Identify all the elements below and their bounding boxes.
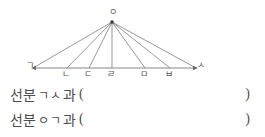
- question-2-suffix: 과: [63, 109, 76, 129]
- question-1-prefix: 선분: [10, 84, 36, 104]
- point-label-ㄱ: ㄱ: [26, 61, 34, 70]
- apex-vertex-dot: [110, 20, 114, 24]
- question-2-prefix: 선분: [10, 109, 36, 129]
- ray-apex-to-6: [112, 22, 196, 68]
- question-2-segment: ㅇㄱ: [36, 111, 62, 128]
- ray-lines: [33, 22, 196, 68]
- point-label-ㄹ: ㄹ: [107, 70, 115, 79]
- ray-apex-to-4: [112, 22, 145, 68]
- ray-apex-to-5: [112, 22, 170, 68]
- question-1-paren-open: (: [79, 86, 84, 102]
- point-label-ㅁ: ㅁ: [140, 70, 148, 79]
- question-1-segment: ㄱㅅ: [36, 86, 62, 103]
- question-list: 선분 ㄱㅅ 과 ( ) 선분 ㅇㄱ 과 ( ): [0, 80, 265, 137]
- point-label-ㄴ: ㄴ: [62, 70, 70, 79]
- question-1-paren-close: ): [245, 86, 250, 102]
- point-label-ㅂ: ㅂ: [165, 70, 173, 79]
- worksheet-page: ㅇㄱㄴㄷㄹㅁㅂㅅ 선분 ㄱㅅ 과 ( ) 선분 ㅇㄱ 과 ( ): [0, 0, 265, 137]
- point-label-ㄷ: ㄷ: [84, 70, 92, 79]
- fan-diagram-figure: ㅇㄱㄴㄷㄹㅁㅂㅅ: [0, 0, 265, 80]
- question-row-1: 선분 ㄱㅅ 과 ( ): [10, 81, 258, 107]
- question-2-paren-open: (: [79, 111, 84, 127]
- question-row-2: 선분 ㅇㄱ 과 ( ): [10, 106, 258, 132]
- point-label-ㅅ: ㅅ: [197, 61, 205, 70]
- fan-diagram-svg: [0, 0, 265, 80]
- question-2-paren-close: ): [245, 111, 250, 127]
- ray-apex-to-1: [67, 22, 112, 68]
- question-1-suffix: 과: [63, 84, 76, 104]
- point-label-apex: ㅇ: [109, 8, 117, 17]
